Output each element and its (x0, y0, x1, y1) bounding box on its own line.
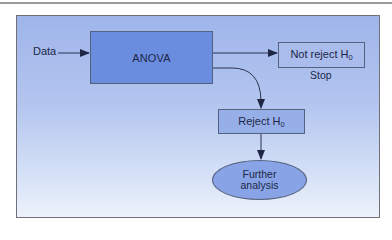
further-analysis-node: Further analysis (212, 160, 307, 200)
reject-text: Reject H (238, 115, 280, 127)
reject-h0-node: Reject H0 (218, 109, 305, 134)
not-reject-h0-node: Not reject H0 (278, 42, 365, 68)
reject-subscript: 0 (281, 120, 285, 129)
not-reject-label: Not reject H0 (290, 48, 352, 62)
data-input-label: Data (33, 45, 56, 57)
anova-node: ANOVA (90, 31, 213, 84)
further-analysis-line2: analysis (241, 180, 279, 191)
not-reject-text: Not reject H (290, 48, 348, 60)
not-reject-subscript: 0 (348, 53, 352, 62)
reject-label: Reject H0 (238, 115, 284, 129)
anova-label: ANOVA (132, 52, 171, 64)
arrow-anova-to-reject (213, 68, 261, 108)
stop-caption: Stop (310, 69, 332, 81)
